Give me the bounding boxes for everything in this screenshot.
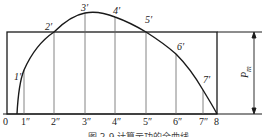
- mean-pressure-rectangle: [7, 32, 217, 114]
- point-label-7: 7′: [203, 74, 211, 85]
- tick-label-8: 8: [214, 116, 219, 127]
- tick-label-3: 3″: [82, 116, 91, 127]
- tick-label-1: 1″: [21, 116, 30, 127]
- point-label-4: 4′: [113, 5, 121, 16]
- tick-label-5: 5″: [143, 116, 152, 127]
- point-label-3: 3′: [80, 2, 89, 13]
- point-label-6: 6′: [177, 41, 185, 52]
- pm-dimension-arrow: [252, 32, 256, 114]
- tick-label-6: 6″: [173, 116, 182, 127]
- tick-label-7: 7″: [199, 116, 208, 127]
- point-label-1: 1′: [14, 71, 22, 82]
- point-label-5: 5′: [145, 14, 153, 25]
- figure-caption: 图 2-9 计算示功的全曲线: [88, 131, 189, 137]
- tick-label-4: 4″: [112, 116, 121, 127]
- pm-label: Pm: [239, 66, 253, 79]
- tick-label-2: 2″: [51, 116, 60, 127]
- indicator-diagram: Pm 1′ 2′ 3′ 4′ 5′ 6′ 7′ 0 1″ 2″ 3″ 4″ 5″…: [0, 0, 263, 137]
- tick-label-0: 0: [3, 116, 8, 127]
- point-label-2: 2′: [45, 21, 53, 32]
